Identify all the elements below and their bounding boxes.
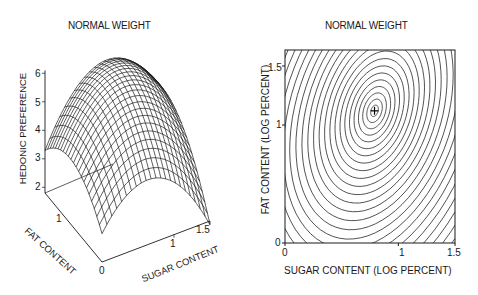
- contour-x-tick-1: 1: [399, 247, 405, 258]
- contour-y-tick-1: 1: [276, 119, 282, 130]
- contour-y-tick-1-5: 1.5: [268, 62, 282, 73]
- contour-y-tick-0: 0: [275, 237, 281, 248]
- contour-x-axis-label: SUGAR CONTENT (LOG PERCENT): [284, 265, 452, 276]
- contour-x-tick-0: 0: [282, 247, 288, 258]
- contour-y-axis-label: FAT CONTENT (LOG PERCENT): [260, 55, 271, 225]
- contour-plot: [0, 0, 478, 295]
- contour-x-tick-1-5: 1.5: [447, 247, 461, 258]
